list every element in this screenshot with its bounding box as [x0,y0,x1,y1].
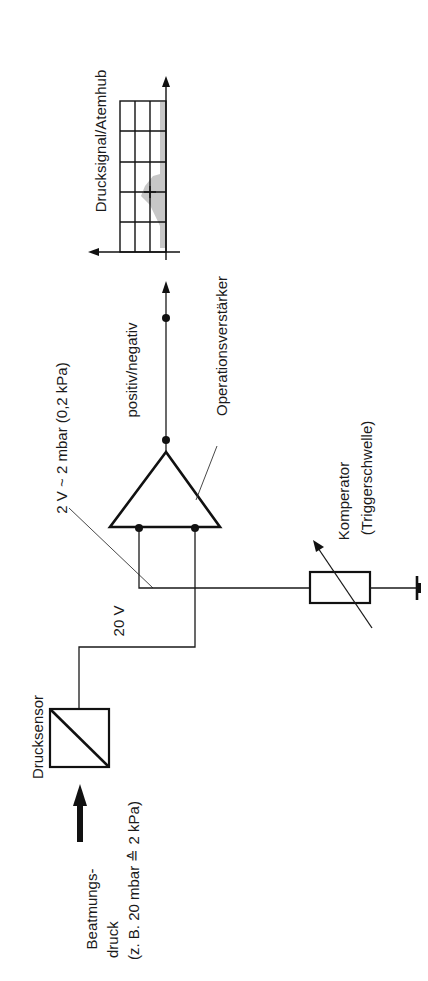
output-node-upper [162,314,170,322]
output-chart-label: Drucksignal/Atemhub [92,70,109,213]
reference-wire [139,528,310,588]
opamp-leader [196,446,217,500]
circuit-diagram: Drucksignal/Atemhub positiv/negativ Oper… [0,0,428,981]
signal-wire [79,528,195,709]
value-axis-arrow-icon [88,248,99,256]
sensor-label: Drucksensor [29,695,46,779]
polarity-label: positiv/negativ [123,322,140,418]
output-node-lower [162,436,170,444]
input-label-line3: (z. B. 20 mbar ≙ 2 kPa) [125,801,142,960]
output-arrow-icon [162,281,170,293]
ground-icon [417,576,421,600]
comparator-box [310,572,370,603]
signal-shade [141,102,166,248]
input-arrow-icon [73,784,87,806]
opamp-triangle [110,452,220,527]
gain-label: 2 V ~ 2 mbar (0,2 kPa) [53,362,70,513]
gain-leader [69,508,153,588]
comparator-adjust-arrow-icon [313,540,324,552]
time-axis-arrow-icon [162,76,170,87]
opamp-label: Operationsverstärker [213,276,230,416]
comparator-sublabel: (Triggerschwelle) [358,421,375,535]
input-label-line2: druck [104,921,121,958]
input-label-line1: Beatmungs- [83,869,100,950]
supply-label: 20 V [110,606,127,637]
comparator-label: Komperator [335,462,352,540]
